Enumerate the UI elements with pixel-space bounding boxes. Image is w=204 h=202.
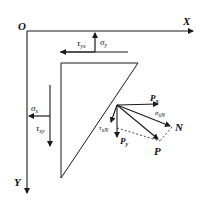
tau-yx-label: τyx [77,38,86,49]
tau-n-arrow [111,105,117,122]
tau-xy-label: τxy [36,123,45,134]
n-to-p-dashed [160,127,172,141]
px-arrow [117,104,158,105]
tau-n-label: τxN [99,124,109,133]
py-label: Py [120,136,129,147]
px-label: Px [150,93,159,104]
sigma-n-label: σxN [155,109,166,118]
triangle-element [61,63,138,178]
sigma-y-label: σy [100,37,107,48]
stress-diagram: O X Y σy τyx σx τxy Px σxN N P Py τxN [0,0,204,202]
sigma-x-label: σx [31,103,38,114]
p-label: P [154,145,161,157]
x-axis-label: X [182,15,191,27]
y-axis-label: Y [14,176,22,188]
diagram-canvas: O X Y σy τyx σx τxy Px σxN N P Py τxN [0,0,204,202]
origin-label: O [18,20,26,32]
n-label: N [174,121,184,133]
